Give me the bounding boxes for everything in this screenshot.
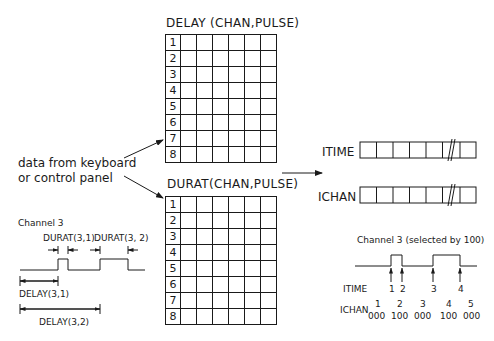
ichan-array (360, 184, 476, 206)
right-waveform (355, 255, 477, 266)
arrow-to-delay-icon (124, 140, 163, 158)
arrow-to-durat-icon (124, 176, 163, 198)
left-waveform (20, 259, 145, 270)
diagram-graphics (0, 0, 494, 341)
itime-array (360, 139, 476, 161)
